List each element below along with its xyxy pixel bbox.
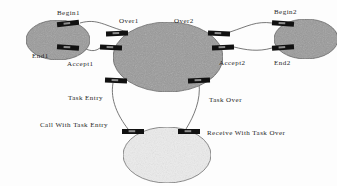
label-receive-with-task-over: Receive With Task Over — [207, 130, 285, 137]
label-over2: Over2 — [174, 18, 194, 25]
port-taskover[interactable] — [188, 78, 210, 84]
bottom-component[interactable] — [123, 127, 211, 183]
label-begin2: Begin2 — [274, 9, 297, 16]
conn-taskentry-call — [112, 83, 128, 129]
port-accept2[interactable] — [212, 45, 234, 51]
label-begin1: Begin1 — [57, 10, 80, 17]
conn-over2-begin2 — [230, 23, 272, 32]
label-call-with-task-entry: Call With Task Entry — [40, 122, 108, 129]
label-accept1: Accept1 — [67, 61, 93, 68]
port-callwithtaskentry-notch — [129, 130, 136, 132]
port-over2-notch — [215, 32, 222, 34]
port-over1-notch — [113, 32, 120, 34]
port-taskover-notch — [195, 79, 202, 81]
diagram-canvas: Begin1End1Accept1Over1Over2Accept2Begin2… — [0, 0, 337, 186]
conn-end2-accept2 — [234, 47, 272, 50]
port-accept1-notch — [107, 46, 114, 48]
label-end2: End2 — [274, 60, 291, 67]
port-accept1[interactable] — [100, 45, 122, 51]
port-taskentry-notch — [112, 79, 119, 81]
port-receivewithtaskover[interactable] — [178, 129, 200, 134]
port-over2[interactable] — [208, 31, 230, 37]
port-receivewithtaskover-notch — [185, 130, 192, 132]
port-taskentry[interactable] — [105, 78, 127, 84]
port-over1[interactable] — [106, 31, 128, 37]
label-end1: End1 — [32, 53, 49, 60]
label-over1: Over1 — [119, 18, 139, 25]
label-accept2: Accept2 — [219, 60, 245, 67]
port-callwithtaskentry[interactable] — [122, 129, 144, 134]
label-task-entry: Task Entry — [68, 95, 103, 102]
port-accept2-notch — [219, 46, 226, 48]
label-task-over: Task Over — [209, 97, 242, 104]
diagram-svg — [0, 0, 337, 186]
